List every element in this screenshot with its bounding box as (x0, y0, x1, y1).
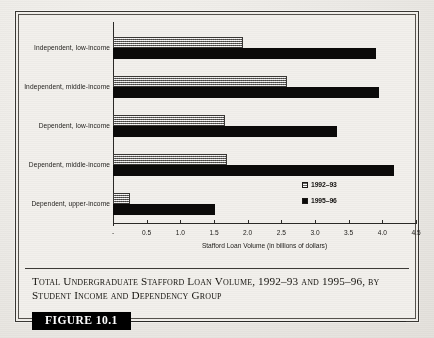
figure-badge-row: FIGURE 10.1 (32, 312, 406, 330)
bar-group (113, 193, 416, 215)
bar-group (113, 37, 416, 59)
figure-badge-rule (131, 321, 406, 322)
bar-1995-96 (113, 87, 379, 98)
bar-1995-96 (113, 204, 215, 215)
plot-area: -0.51.01.52.02.53.03.54.04.5 (113, 28, 416, 224)
x-axis-tick-label: 2.0 (243, 229, 252, 236)
x-axis-tick-label: - (112, 229, 114, 236)
x-axis-tick (214, 220, 215, 224)
legend-item-1995-96: 1995–96 (302, 197, 337, 204)
legend-label-1995-96: 1995–96 (311, 197, 337, 204)
category-label: Independent, middle-income (22, 82, 110, 89)
bar-group (113, 115, 416, 137)
chart-panel: Independent, low-incomeIndependent, midd… (16, 12, 418, 264)
legend-item-1992-93: 1992–93 (302, 181, 337, 188)
x-axis-tick-label: 4.0 (378, 229, 387, 236)
scanned-page: Independent, low-incomeIndependent, midd… (0, 0, 434, 338)
caption-divider (25, 268, 409, 269)
x-axis-tick-label: 1.0 (176, 229, 185, 236)
legend-swatch-1995-96-icon (302, 198, 308, 204)
figure-number-badge: FIGURE 10.1 (32, 312, 131, 330)
bar-group (113, 154, 416, 176)
category-axis-labels: Independent, low-incomeIndependent, midd… (22, 28, 110, 224)
x-axis-tick-label: 1.5 (209, 229, 218, 236)
x-axis-tick (281, 220, 282, 224)
x-axis-tick (147, 220, 148, 224)
x-axis-tick-label: 4.5 (411, 229, 420, 236)
legend-label-1992-93: 1992–93 (311, 181, 337, 188)
bar-1992-93 (113, 76, 287, 87)
bar-1995-96 (113, 165, 394, 176)
figure-frame: Independent, low-incomeIndependent, midd… (15, 11, 419, 322)
legend-swatch-1992-93-icon (302, 182, 308, 188)
bar-1992-93 (113, 193, 130, 204)
x-axis-tick (248, 220, 249, 224)
x-axis-tick (382, 220, 383, 224)
x-axis-tick (349, 220, 350, 224)
category-label: Dependent, middle-income (22, 161, 110, 168)
category-label: Independent, low-income (22, 43, 110, 50)
x-axis-title: Stafford Loan Volume (in billions of dol… (113, 242, 416, 249)
x-axis-tick-label: 3.5 (344, 229, 353, 236)
category-label: Dependent, low-income (22, 122, 110, 129)
x-axis-tick-label: 2.5 (277, 229, 286, 236)
bar-group (113, 76, 416, 98)
x-axis-tick-label: 3.0 (310, 229, 319, 236)
x-axis-line (113, 223, 416, 224)
bar-1995-96 (113, 126, 337, 137)
plot-wrapper: Independent, low-incomeIndependent, midd… (16, 18, 412, 264)
x-axis-tick (416, 220, 417, 224)
category-label: Dependent, upper-income (22, 200, 110, 207)
x-axis-tick (315, 220, 316, 224)
bar-1992-93 (113, 115, 225, 126)
bar-1992-93 (113, 37, 243, 48)
x-axis-tick (180, 220, 181, 224)
figure-caption: Total Undergraduate Stafford Loan Volume… (32, 275, 404, 302)
bar-1995-96 (113, 48, 376, 59)
x-axis-tick-label: 0.5 (142, 229, 151, 236)
bar-1992-93 (113, 154, 227, 165)
chart-legend: 1992–93 1995–96 (302, 181, 337, 213)
